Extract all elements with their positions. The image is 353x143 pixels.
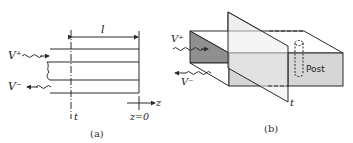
incident-wave-label-a: V⁺: [8, 49, 22, 62]
reference-plane-t-front: [228, 12, 288, 102]
caption-a: (a): [90, 128, 104, 139]
diagram-canvas: V⁺ V⁻ l t z z=0 (a): [0, 0, 353, 143]
reflected-wave-label-b: V⁻: [181, 76, 194, 87]
incident-wave-label-b: V⁺: [171, 33, 184, 44]
incident-wave-icon: [22, 55, 42, 58]
length-label: l: [101, 23, 105, 36]
reflected-wave-label-a: V⁻: [8, 80, 22, 93]
caption-b: (b): [264, 123, 278, 134]
waveguide-bottom-face: [190, 63, 229, 86]
origin-label: z=0: [129, 111, 149, 122]
reference-plane-label-b: t: [290, 97, 295, 108]
reference-plane-label-a: t: [74, 111, 79, 122]
inner-conductor-break: [47, 62, 50, 80]
post-label: Post: [306, 64, 325, 74]
figure-b-waveguide: [173, 12, 343, 102]
figure-a-transmission-line: [22, 30, 155, 119]
z-axis-label: z: [155, 97, 162, 108]
reflected-wave-icon: [36, 86, 51, 89]
